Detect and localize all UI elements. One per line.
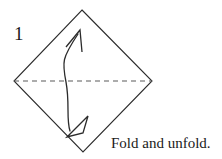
figure-caption: Fold and unfold. [111,135,211,152]
step-number-label: 1 [14,24,24,43]
